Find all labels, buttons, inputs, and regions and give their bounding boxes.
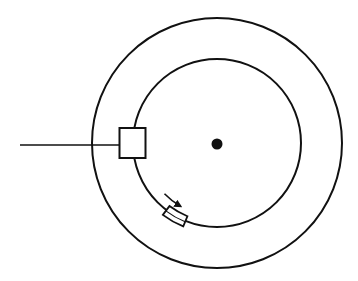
square-block — [120, 128, 146, 158]
rotation-arrow-icon — [164, 194, 180, 207]
arc-block — [163, 206, 188, 226]
center-dot — [212, 139, 223, 150]
diagram-canvas — [0, 0, 358, 281]
